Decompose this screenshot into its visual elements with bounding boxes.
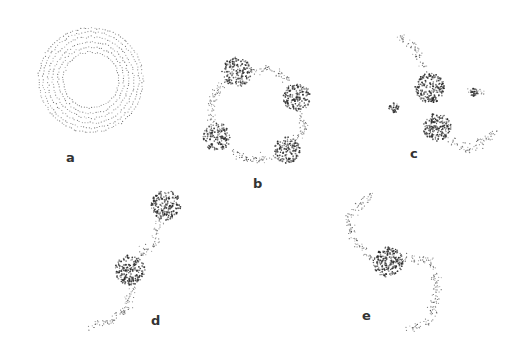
- panel-label-a: a: [66, 150, 75, 165]
- panel-label-c: c: [410, 146, 418, 161]
- panel-d-dots: [88, 191, 181, 331]
- panel-label-d: d: [151, 313, 160, 328]
- panel-c-dots: [388, 34, 497, 153]
- panel-e-dots: [345, 193, 442, 332]
- panel-b-dots: [202, 56, 310, 163]
- panel-a-dots: [38, 27, 145, 133]
- panel-label-b: b: [253, 176, 262, 191]
- figure-canvas: [0, 0, 527, 362]
- panel-label-e: e: [362, 308, 371, 323]
